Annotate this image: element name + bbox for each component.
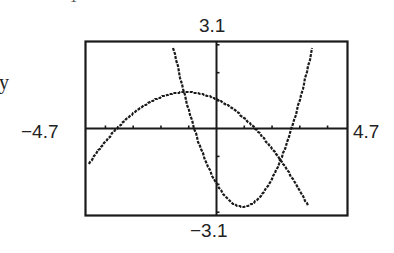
curve-downward-parabola [89, 92, 308, 206]
graph-window [0, 0, 394, 253]
